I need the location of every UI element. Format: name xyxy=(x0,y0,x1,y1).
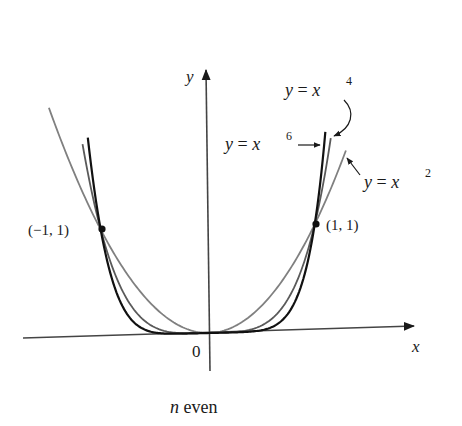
point-neg1-1 xyxy=(98,225,105,232)
curve-x-squared xyxy=(49,108,346,333)
point-label-1-1: (1, 1) xyxy=(326,217,359,234)
svg-text:y = x: y = x xyxy=(362,172,399,192)
point-label-neg1-1: (−1, 1) xyxy=(28,222,69,239)
svg-text:y = x: y = x xyxy=(223,134,260,154)
caption: n even xyxy=(170,397,217,417)
exp-4: 4 xyxy=(346,74,352,88)
exp-2: 2 xyxy=(425,166,431,180)
label-x2: y = x 2 xyxy=(362,166,431,192)
origin-label: 0 xyxy=(192,342,201,361)
label-x6: y = x 6 xyxy=(223,129,292,154)
svg-text:y = x: y = x xyxy=(283,80,320,100)
point-1-1 xyxy=(312,220,319,227)
arrow-x4 xyxy=(334,100,351,136)
exp-6: 6 xyxy=(286,129,292,143)
y-axis-label: y xyxy=(184,67,194,86)
y-axis xyxy=(206,70,210,371)
power-functions-chart: (−1, 1) (1, 1) y x 0 y = x 4 y = x 6 y =… xyxy=(0,0,462,426)
curve-group xyxy=(49,108,346,334)
x-axis-label: x xyxy=(411,337,420,356)
label-x4: y = x 4 xyxy=(283,74,352,100)
arrow-x2 xyxy=(347,158,360,175)
